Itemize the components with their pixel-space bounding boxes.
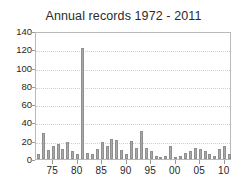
bar [125,154,128,159]
bar [57,144,60,159]
bar [223,146,226,159]
bar [52,146,55,159]
x-tick-mark [199,160,200,164]
x-tick-mark [175,160,176,164]
bar [115,140,118,159]
x-tick-label: 95 [139,165,161,177]
x-tick-mark [150,160,151,164]
bar [150,151,153,159]
x-axis-labels: 7580859095000510 [35,165,231,181]
chart-title: Annual records 1972 - 2011 [0,9,247,23]
plot-area [35,32,231,160]
bar [47,150,50,159]
bar [164,156,167,159]
bar [61,149,64,159]
x-tick-label: 05 [188,165,210,177]
bar [155,156,158,159]
x-tick-label: 10 [213,165,235,177]
bar [204,151,207,159]
y-axis-ticks [0,32,36,160]
bar [106,146,109,159]
bar [174,157,177,159]
bar [76,154,79,159]
bar [42,133,45,159]
bar [208,154,211,159]
bar [71,151,74,159]
bar [120,150,123,159]
bar [110,139,113,159]
bar [91,154,94,159]
bar [81,48,84,159]
bar [66,142,69,159]
x-tick-label: 90 [115,165,137,177]
bar [37,154,40,159]
bar [179,156,182,159]
bar [159,157,162,159]
bar [189,151,192,159]
x-tick-mark [224,160,225,164]
bar [184,153,187,159]
x-tick-mark [52,160,53,164]
bar [194,148,197,159]
bar [169,146,172,159]
x-tick-label: 85 [90,165,112,177]
x-tick-label: 80 [66,165,88,177]
bar [96,149,99,159]
x-tick-mark [77,160,78,164]
x-tick-label: 00 [164,165,186,177]
bar [213,156,216,159]
bar [130,141,133,159]
bar [135,148,138,159]
bar [101,142,104,159]
bar [199,149,202,159]
x-tick-mark [101,160,102,164]
bar-series [36,33,230,159]
bar [86,153,89,159]
bar [218,149,221,159]
x-tick-label: 75 [41,165,63,177]
bar-chart: Annual records 1972 - 2011 0204060801001… [0,0,247,191]
x-tick-mark [126,160,127,164]
bar [228,154,231,159]
bar [145,148,148,159]
bar [140,131,143,159]
